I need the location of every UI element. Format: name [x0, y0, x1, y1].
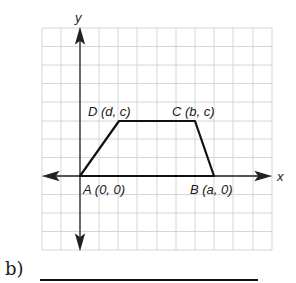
answer-line[interactable]: [40, 279, 258, 281]
vertex-label-a: A (0, 0): [82, 182, 125, 197]
coordinate-diagram: y x D (d, c) C (b, c) A (0, 0) B (a, 0): [0, 0, 296, 283]
vertex-label-c: C (b, c): [172, 104, 215, 119]
vertex-label-b: B (a, 0): [190, 182, 233, 197]
trapezoid-abcd: [80, 121, 214, 176]
vertex-label-d: D (d, c): [88, 104, 131, 119]
part-label: b): [5, 258, 24, 279]
grid: [42, 28, 272, 250]
x-axis-label: x: [276, 169, 284, 184]
y-axis-label: y: [74, 10, 83, 25]
